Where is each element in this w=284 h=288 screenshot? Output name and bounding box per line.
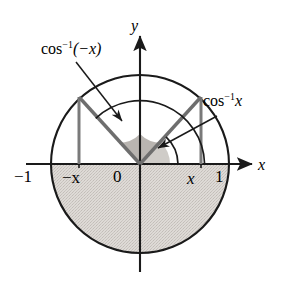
figure-canvas: cos−1(−x) cos−1x x y −1 −x 0 x 1 bbox=[0, 0, 284, 288]
y-axis-label: y bbox=[131, 18, 138, 34]
tick-label-one: 1 bbox=[215, 168, 224, 185]
label-arccos-x-base: cos bbox=[203, 92, 224, 109]
tick-label-zero: 0 bbox=[113, 168, 122, 185]
tick-label-x: x bbox=[187, 170, 195, 187]
tick-label-neg-one: −1 bbox=[14, 168, 32, 185]
ray-left bbox=[79, 97, 140, 164]
label-arccos-neg-x-argument: (−x) bbox=[73, 40, 102, 57]
tick-label-neg-x: −x bbox=[62, 169, 80, 186]
label-arccos-x-exponent: −1 bbox=[224, 91, 235, 102]
label-arccos-neg-x: cos−1(−x) bbox=[41, 40, 101, 57]
label-arccos-x: cos−1x bbox=[203, 92, 242, 109]
ray-right bbox=[140, 97, 201, 164]
label-arccos-neg-x-exponent: −1 bbox=[62, 39, 73, 50]
label-arccos-neg-x-base: cos bbox=[41, 40, 62, 57]
pointer-left-angle bbox=[76, 62, 122, 121]
x-axis-label: x bbox=[258, 157, 265, 173]
label-arccos-x-argument: x bbox=[235, 92, 242, 109]
